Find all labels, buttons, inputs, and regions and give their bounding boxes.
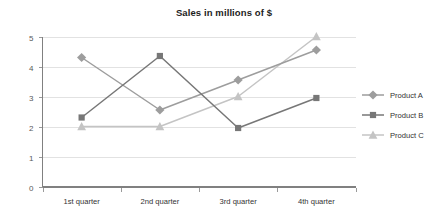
x-axis-category-label: 3rd quarter [220,197,258,206]
legend-item-product-a[interactable]: Product A [362,90,424,100]
data-point-marker [234,75,243,84]
gridlines [43,38,356,158]
chart-container: Sales in millions of $ 012345 1st quarte… [0,0,448,223]
y-axis-tick-label: 0 [29,184,34,193]
data-series [77,32,321,131]
y-axis-tick-label: 4 [29,64,34,73]
data-point-marker [155,105,164,114]
line-chart-plot: 012345 1st quarter2nd quarter3rd quarter… [0,0,448,223]
series-line [82,50,317,110]
legend-marker-icon [370,112,376,118]
legend-item-product-c[interactable]: Product C [362,131,424,140]
series-product-a [77,45,321,114]
y-axis-tick-label: 5 [29,34,34,43]
data-point-marker [235,125,241,131]
x-axis-category-labels: 1st quarter2nd quarter3rd quarter4th qua… [63,197,335,206]
x-axis-category-label: 4th quarter [298,197,335,206]
series-line [82,56,317,128]
data-point-marker [77,53,86,62]
legend-item-label: Product A [390,91,424,100]
legend-item-product-b[interactable]: Product B [362,111,423,120]
legend: Product AProduct BProduct C [362,90,424,140]
series-product-b [79,53,320,131]
data-point-marker [157,53,163,59]
legend-item-label: Product B [390,111,423,120]
y-axis-tick-label: 3 [29,94,34,103]
data-point-marker [312,45,321,54]
x-axis-category-label: 2nd quarter [140,197,179,206]
y-axis-tick-label: 1 [29,154,34,163]
y-axis-tick-labels: 012345 [29,34,34,193]
y-axis-tick-label: 2 [29,124,34,133]
series-product-c [77,32,321,130]
data-point-marker [79,114,85,120]
x-axis-category-label: 1st quarter [63,197,100,206]
legend-item-label: Product C [390,131,424,140]
legend-marker-icon [368,90,377,99]
data-point-marker [312,32,321,40]
data-point-marker [313,95,319,101]
